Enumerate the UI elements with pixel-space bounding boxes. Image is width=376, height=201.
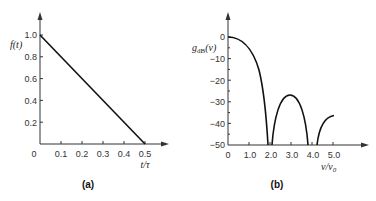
chart-b-x-arrow-icon [361, 143, 369, 148]
chart-a-x-tick-label: 0 [31, 149, 36, 159]
chart-b-y-tick-label: −40 [210, 119, 225, 129]
chart-a: 0 0.1 0.2 0.3 0.4 0.5 0.2 0.4 0.6 0.8 1.… [10, 12, 169, 190]
chart-a-y-tick-label: 0.2 [24, 118, 37, 128]
chart-b-second-lobe [272, 95, 308, 145]
chart-b-y-tick-label: −20 [210, 76, 225, 86]
chart-b-x-tick-label: 0 [225, 150, 230, 160]
chart-a-series-line [40, 35, 145, 144]
chart-a-x-label: t/τ [140, 159, 150, 170]
chart-a-x-tick-label: 0.4 [118, 149, 131, 159]
chart-b-y-tick-label: 0 [220, 32, 225, 42]
chart-a-x-tick-label: 0.3 [97, 149, 110, 159]
chart-a-y-label: f(t) [10, 39, 23, 51]
chart-a-y-arrow-icon [38, 12, 43, 20]
chart-a-y-tick-label: 0.8 [24, 52, 37, 62]
chart-a-x-tick-label: 0.1 [55, 149, 68, 159]
chart-b-x-tick-label: 3.0 [286, 150, 299, 160]
chart-b: 0 1.0 2.0 3.0 4.0 5.0 0 −10 −20 −30 −40 … [192, 12, 369, 190]
chart-b-y-arrow-icon [226, 12, 231, 20]
chart-b-x-tick-label: 4.0 [307, 150, 320, 160]
chart-b-x-label: ν/ν0 [321, 161, 337, 174]
chart-b-x-tick-label: 1.0 [244, 150, 257, 160]
chart-b-x-tick-label: 5.0 [328, 150, 341, 160]
chart-a-x-tick-label: 0.5 [139, 149, 152, 159]
chart-a-panel-label: (a) [82, 179, 94, 190]
chart-a-x-arrow-icon [161, 142, 169, 147]
chart-a-y-tick-label: 0.4 [24, 96, 37, 106]
chart-b-panel-label: (b) [271, 179, 284, 190]
chart-b-y-tick-label: −30 [210, 97, 225, 107]
chart-b-main-lobe [228, 37, 268, 145]
chart-b-third-lobe [317, 116, 334, 146]
chart-a-y-tick-label: 0.6 [24, 74, 37, 84]
chart-a-x-tick-label: 0.2 [76, 149, 89, 159]
chart-b-y-tick-label: −50 [210, 140, 225, 150]
figure-canvas: 0 0.1 0.2 0.3 0.4 0.5 0.2 0.4 0.6 0.8 1.… [0, 0, 376, 201]
chart-a-y-tick-label: 1.0 [24, 30, 37, 40]
chart-b-y-tick-label: −10 [210, 54, 225, 64]
chart-b-x-tick-label: 2.0 [265, 150, 278, 160]
